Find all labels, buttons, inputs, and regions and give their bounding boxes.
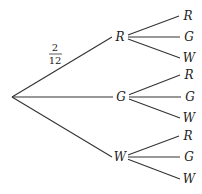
node-r: R xyxy=(114,30,124,44)
node-w: W xyxy=(114,150,128,164)
leaf-edge-w-w xyxy=(128,159,180,179)
node-g: G xyxy=(116,90,126,104)
leaf-g-w: W xyxy=(183,111,197,125)
fraction-numerator: 2 xyxy=(52,42,58,53)
leaf-r-r: R xyxy=(182,9,192,23)
leaf-edge-r-r xyxy=(128,16,179,35)
branch-edge-w xyxy=(12,97,112,157)
leaf-edge-g-r xyxy=(129,75,180,95)
leaf-edge-w-r xyxy=(128,136,179,155)
branch-edge-r xyxy=(12,37,112,97)
tree-edges xyxy=(12,16,181,179)
edge-probability-fraction: 2 12 xyxy=(49,42,62,66)
leaf-edge-g-w xyxy=(129,99,180,118)
leaf-w-r: R xyxy=(182,129,192,143)
leaf-r-w: W xyxy=(183,51,197,65)
leaf-edge-r-w xyxy=(128,39,180,58)
leaf-g-g: G xyxy=(185,90,195,104)
leaf-w-w: W xyxy=(183,172,197,186)
leaf-g-r: R xyxy=(183,68,193,82)
fraction-denominator: 12 xyxy=(49,55,62,66)
leaf-r-g: G xyxy=(184,30,194,44)
probability-tree: RRGWGRGWWRGW 2 12 xyxy=(0,0,202,194)
leaf-w-g: G xyxy=(184,150,194,164)
